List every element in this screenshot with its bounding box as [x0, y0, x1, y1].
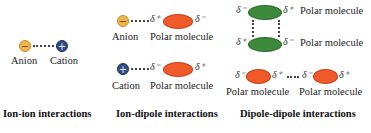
polar-molecule-label: Polar molecule	[150, 80, 213, 91]
title-ion-ion: Ion-ion interactions	[3, 108, 91, 119]
delta-left: δ⁺	[236, 36, 246, 47]
polar-molecule-icon	[248, 5, 282, 20]
cation-label: Cation	[50, 55, 78, 66]
polar-molecule-label: Polar molecule	[226, 86, 289, 97]
title-ion-dipole: Ion-dipole interactions	[116, 108, 218, 119]
interaction-dots	[287, 76, 299, 78]
title-dipole-dipole: Dipole-dipole interactions	[240, 108, 356, 119]
polar-molecule-icon	[313, 69, 338, 84]
delta-near: δ⁻	[150, 61, 160, 72]
polar-molecule-label: Polar molecule	[300, 5, 363, 16]
delta-left: δ⁻	[302, 69, 312, 80]
anion-label: Anion	[112, 31, 138, 42]
polar-molecule-icon	[248, 37, 282, 52]
delta-far: δ⁺	[195, 61, 205, 72]
interaction-dots	[33, 45, 54, 47]
polar-molecule-icon	[163, 62, 193, 77]
delta-left: δ⁻	[236, 4, 246, 15]
delta-left: δ⁻	[235, 69, 245, 80]
anion-icon: −	[19, 40, 31, 52]
polar-molecule-icon	[246, 69, 271, 84]
delta-right: δ⁻	[283, 36, 293, 47]
anion-label: Anion	[11, 55, 37, 66]
delta-far: δ⁻	[195, 13, 205, 24]
interaction-dots	[131, 68, 149, 70]
delta-right: δ⁺	[272, 69, 282, 80]
delta-right: δ⁺	[283, 4, 293, 15]
interaction-dots	[131, 20, 149, 22]
cation-icon: +	[56, 40, 68, 52]
anion-icon: −	[117, 15, 129, 27]
delta-right: δ⁺	[339, 69, 349, 80]
polar-molecule-icon	[163, 14, 193, 29]
polar-molecule-label: Polar molecule	[299, 86, 362, 97]
polar-molecule-label: Polar molecule	[300, 37, 363, 48]
cation-label: Cation	[112, 80, 140, 91]
interaction-dots	[252, 20, 254, 37]
cation-icon: +	[117, 63, 129, 75]
interaction-dots	[278, 20, 280, 37]
polar-molecule-label: Polar molecule	[150, 31, 213, 42]
delta-near: δ⁺	[150, 13, 160, 24]
